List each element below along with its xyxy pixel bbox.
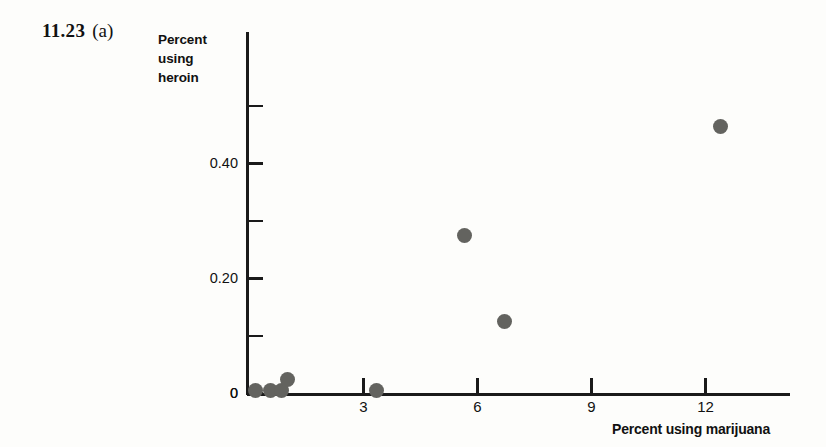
data-point	[713, 119, 728, 134]
y-axis-tick-label: 0.40	[180, 155, 238, 171]
x-axis-tick-label: 12	[686, 398, 726, 415]
x-axis-tick-label: 9	[572, 398, 612, 415]
y-axis-tick	[248, 162, 263, 165]
x-axis-tick	[362, 378, 365, 393]
x-axis-tick	[590, 378, 593, 393]
x-axis-line	[247, 393, 790, 396]
data-point	[280, 372, 295, 387]
data-point	[457, 228, 472, 243]
y-axis-tick	[248, 277, 263, 280]
y-axis-tick	[248, 220, 263, 223]
data-point	[497, 314, 512, 329]
plot-area: 00.200.40369120	[0, 0, 826, 447]
y-axis-tick-label: 0.20	[180, 270, 238, 286]
x-axis-tick	[704, 378, 707, 393]
x-axis-tick-label: 6	[458, 398, 498, 415]
data-point	[369, 383, 384, 398]
origin-tick-label: 0	[210, 385, 238, 401]
scatter-plot-figure: 11.23(a) Percent using heroin Percent us…	[0, 0, 826, 447]
data-point	[248, 383, 263, 398]
y-axis-tick	[248, 105, 263, 108]
x-axis-tick-label: 3	[344, 398, 384, 415]
x-axis-tick	[476, 378, 479, 393]
y-axis-tick	[248, 335, 263, 338]
y-axis-line	[246, 32, 249, 395]
